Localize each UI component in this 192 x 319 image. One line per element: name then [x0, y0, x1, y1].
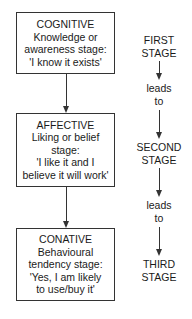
connector-label-line: to — [129, 95, 189, 108]
stage-label-first: FIRST STAGE — [129, 34, 189, 60]
stage-box-conative: CONATIVE Behavioural tendency stage: 'Ye… — [16, 228, 115, 301]
arrow-down-icon — [63, 106, 69, 113]
connector-line — [66, 187, 67, 222]
arrow-down-icon — [156, 73, 162, 80]
stage-text: awareness stage: — [17, 43, 114, 56]
stage-label-second: SECOND STAGE — [129, 141, 189, 167]
stage-text: 'Yes, I am likely — [17, 271, 114, 284]
stage-text: Knowledge or — [17, 31, 114, 44]
stage-title: AFFECTIVE — [17, 119, 114, 132]
stage-text: 'I know it exists' — [17, 56, 114, 69]
stage-box-cognitive: COGNITIVE Knowledge or awareness stage: … — [16, 12, 115, 74]
stage-label-line: FIRST — [129, 34, 189, 47]
arrow-down-icon — [63, 221, 69, 228]
connector-line — [159, 168, 160, 191]
arrow-down-icon — [156, 132, 162, 139]
stage-label-line: SECOND — [129, 141, 189, 154]
stage-text: to use/buy it' — [17, 283, 114, 296]
stage-label-line: THIRD — [129, 258, 189, 271]
stage-box-affective: AFFECTIVE Liking or belief stage: 'I lik… — [16, 113, 115, 187]
connector-label: leads to — [129, 82, 189, 108]
connector-label: leads to — [129, 199, 189, 225]
stage-label-line: STAGE — [129, 47, 189, 60]
stage-text: stage: — [17, 144, 114, 157]
arrow-down-icon — [156, 249, 162, 256]
stage-label-line: STAGE — [129, 154, 189, 167]
connector-label-line: leads — [129, 199, 189, 212]
connector-line — [159, 110, 160, 133]
stage-text: tendency stage: — [17, 258, 114, 271]
connector-label-line: to — [129, 212, 189, 225]
stage-text: Liking or belief — [17, 131, 114, 144]
connector-line — [66, 74, 67, 107]
connector-line — [159, 227, 160, 250]
stage-text: 'I like it and I — [17, 156, 114, 169]
stage-text: Behavioural — [17, 246, 114, 259]
stage-label-line: STAGE — [129, 271, 189, 284]
stage-text: believe it will work' — [17, 169, 114, 182]
stage-label-third: THIRD STAGE — [129, 258, 189, 284]
connector-label-line: leads — [129, 82, 189, 95]
stage-title: CONATIVE — [17, 233, 114, 246]
stage-title: COGNITIVE — [17, 18, 114, 31]
arrow-down-icon — [156, 190, 162, 197]
